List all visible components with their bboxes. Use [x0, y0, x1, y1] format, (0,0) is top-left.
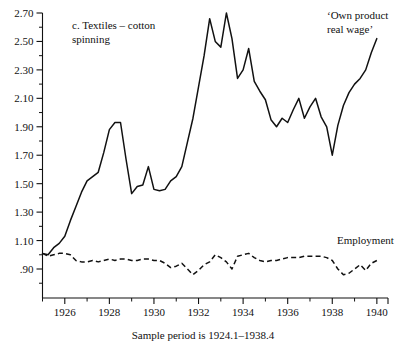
- y-tick-label: 1.10: [14, 235, 34, 247]
- y-tick-label: 2.30: [14, 64, 34, 76]
- x-tick-label: 1934: [232, 306, 255, 318]
- y-tick-label: 2.10: [14, 92, 34, 104]
- own-product-real-wage-label-line2: real wage’: [327, 23, 373, 35]
- employment-label: Employment: [337, 234, 394, 246]
- y-tick-label: 1.50: [14, 178, 34, 190]
- y-tick-label: 1.70: [14, 149, 34, 161]
- data-series-group: [43, 13, 377, 275]
- own-product-real-wage-label-line1: ‘Own product: [327, 9, 388, 21]
- panel-title-line2: spinning: [72, 33, 110, 45]
- x-tick-label: 1936: [277, 306, 300, 318]
- x-axis: 19261928193019321934193619381940: [43, 298, 389, 318]
- panel-title-line1: c. Textiles – cotton: [72, 19, 156, 31]
- x-tick-label: 1932: [188, 306, 210, 318]
- employment-series-line: [43, 253, 377, 274]
- x-tick-label: 1938: [321, 306, 344, 318]
- y-axis: 2.702.502.302.101.901.701.501.301.10.90: [14, 7, 42, 298]
- y-tick-label: 1.90: [14, 121, 34, 133]
- x-tick-label: 1926: [54, 306, 77, 318]
- chart-figure: 2.702.502.302.101.901.701.501.301.10.90 …: [0, 0, 406, 353]
- x-tick-label: 1930: [143, 306, 166, 318]
- x-tick-label: 1940: [366, 306, 389, 318]
- y-tick-label: 2.70: [14, 7, 34, 19]
- y-tick-label: 2.50: [14, 35, 34, 47]
- line-chart: 2.702.502.302.101.901.701.501.301.10.90 …: [0, 0, 406, 353]
- y-tick-label: .90: [20, 263, 34, 275]
- y-tick-label: 1.30: [14, 206, 34, 218]
- sample-period-caption: Sample period is 1924.1–1938.4: [132, 329, 275, 341]
- x-tick-label: 1928: [98, 306, 121, 318]
- own-product-real-wage-series-line: [43, 13, 377, 255]
